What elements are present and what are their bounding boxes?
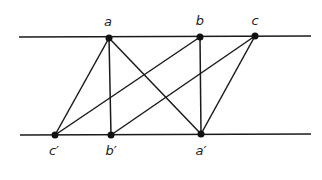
label-a-prime: a′ (196, 143, 207, 158)
point-c_prime (52, 132, 59, 139)
label-a: a (104, 14, 112, 29)
edge-c-b_prime (111, 36, 255, 135)
edge-c-a_prime (201, 36, 255, 134)
point-a_prime (198, 131, 205, 138)
edge-a-c_prime (55, 38, 109, 135)
label-b-prime: b′ (105, 143, 116, 158)
edge-a-b_prime (109, 38, 111, 135)
point-b (197, 34, 204, 41)
edge-b-a_prime (200, 37, 201, 134)
point-b_prime (108, 132, 115, 139)
point-c (252, 33, 259, 40)
edge-a-a_prime (109, 38, 201, 134)
connecting-edges (55, 36, 255, 135)
label-b: b (196, 13, 204, 28)
label-c: c (251, 13, 258, 28)
top-line (19, 36, 311, 37)
point-a (106, 35, 113, 42)
bottom-line (20, 134, 311, 135)
label-c-prime: c′ (49, 143, 59, 158)
edge-b-c_prime (55, 37, 200, 135)
